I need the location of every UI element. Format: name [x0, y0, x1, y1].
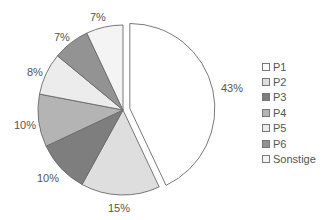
- legend-label: Sonstige: [273, 153, 316, 165]
- legend-label: P4: [273, 107, 286, 119]
- legend-label: P3: [273, 91, 286, 103]
- slice-percent-label: 8%: [27, 66, 43, 78]
- legend-label: P5: [273, 122, 286, 134]
- legend-item-p3: P3: [262, 90, 316, 105]
- legend-label: P1: [273, 61, 286, 73]
- legend-item-p2: P2: [262, 74, 316, 89]
- legend-item-p1: P1: [262, 59, 316, 74]
- slice-percent-label: 7%: [54, 31, 70, 43]
- legend-swatch-icon: [262, 155, 270, 163]
- slice-percent-label: 10%: [14, 119, 36, 131]
- slice-percent-label: 7%: [90, 11, 106, 23]
- legend-swatch-icon: [262, 109, 270, 117]
- legend-swatch-icon: [262, 63, 270, 71]
- slice-percent-label: 15%: [108, 202, 130, 214]
- legend-swatch-icon: [262, 140, 270, 148]
- legend-label: P6: [273, 138, 286, 150]
- slice-percent-label: 43%: [221, 82, 243, 94]
- legend-item-p6: P6: [262, 136, 316, 151]
- legend: P1 P2 P3 P4 P5 P6 Sonstige: [262, 59, 316, 167]
- legend-item-sonstige: Sonstige: [262, 151, 316, 166]
- legend-label: P2: [273, 76, 286, 88]
- slice-percent-label: 10%: [37, 172, 59, 184]
- legend-item-p5: P5: [262, 121, 316, 136]
- legend-item-p4: P4: [262, 105, 316, 120]
- legend-swatch-icon: [262, 124, 270, 132]
- legend-swatch-icon: [262, 78, 270, 86]
- legend-swatch-icon: [262, 93, 270, 101]
